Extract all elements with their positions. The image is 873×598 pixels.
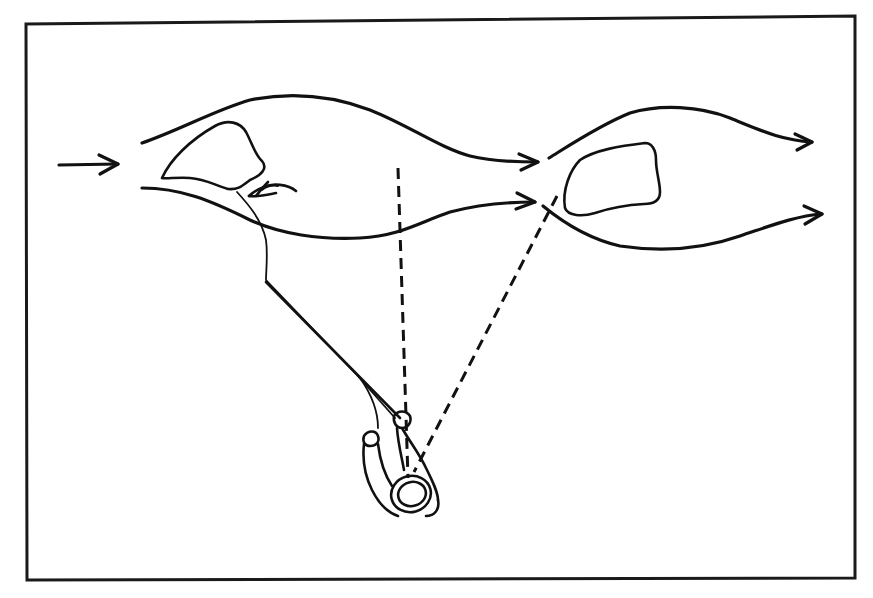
fishing-line xyxy=(237,192,395,418)
angler-topdown-icon xyxy=(363,412,438,517)
fishing-rod xyxy=(266,282,400,428)
flow-line-upper-left xyxy=(142,96,538,170)
rock-upstream xyxy=(162,122,264,189)
flow-line-upper-right xyxy=(549,107,812,158)
diagram-frame xyxy=(26,16,855,580)
eddy-swirl-icon xyxy=(249,182,296,196)
diagram-canvas xyxy=(0,0,873,598)
hat-brim xyxy=(387,471,435,516)
hat-crown xyxy=(395,479,428,509)
flow-line-lower-right xyxy=(543,206,822,249)
arrow-right-icon xyxy=(59,155,118,174)
rock-downstream xyxy=(564,143,660,215)
diagonal-sight-line xyxy=(414,196,557,472)
flow-line-lower-left xyxy=(142,188,535,238)
